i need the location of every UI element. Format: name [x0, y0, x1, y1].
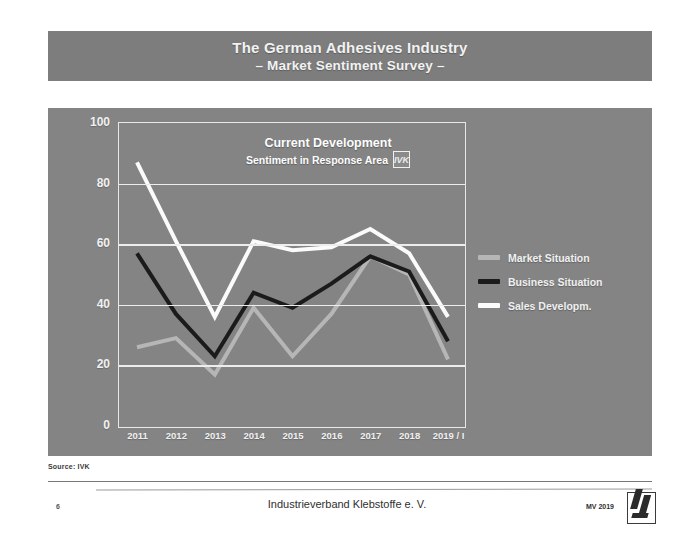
legend-swatch-icon: [478, 303, 500, 308]
gridline: [119, 244, 465, 246]
series-line: [137, 256, 448, 374]
y-tick-label: 40: [76, 297, 110, 311]
x-tick-label: 2012: [166, 430, 187, 441]
legend-label: Business Situation: [508, 276, 603, 288]
gridline: [119, 184, 465, 186]
legend-item: Market Situation: [478, 248, 643, 267]
x-tick-label: 2014: [244, 430, 265, 441]
legend-swatch-icon: [478, 255, 500, 260]
legend-item: Business Situation: [478, 272, 643, 291]
chart-legend: Market SituationBusiness SituationSales …: [478, 248, 643, 320]
legend-label: Market Situation: [508, 252, 590, 264]
legend-label: Sales Developm.: [508, 300, 591, 312]
footer-rule-top: [48, 481, 652, 482]
y-axis-labels: 020406080100: [62, 122, 110, 428]
y-tick-label: 20: [76, 357, 110, 371]
x-axis-labels: 201120122013201420152016201720182019 / I: [118, 430, 466, 450]
slide-title-secondary: – Market Sentiment Survey –: [255, 57, 444, 74]
x-tick-label: 2019 / I: [433, 430, 465, 441]
gridline: [119, 365, 465, 367]
footer-rule-bottom: [96, 488, 652, 490]
slide-title-primary: The German Adhesives Industry: [232, 39, 467, 57]
x-tick-label: 2016: [321, 430, 342, 441]
y-tick-label: 80: [76, 176, 110, 190]
series-line: [137, 162, 448, 317]
x-tick-label: 2018: [399, 430, 420, 441]
x-tick-label: 2011: [127, 430, 148, 441]
x-tick-label: 2013: [205, 430, 226, 441]
chart-panel: 020406080100 201120122013201420152016201…: [48, 108, 652, 456]
x-tick-label: 2017: [360, 430, 381, 441]
series-lines: [119, 123, 464, 426]
y-tick-label: 0: [76, 418, 110, 432]
ivk-brand-logo-icon: [627, 492, 656, 524]
legend-swatch-icon: [478, 279, 500, 284]
legend-item: Sales Developm.: [478, 296, 643, 315]
footer-event-label: MV 2019: [586, 503, 614, 510]
y-tick-label: 100: [76, 115, 110, 129]
plot-area: [118, 122, 466, 428]
slide-title-banner: The German Adhesives Industry – Market S…: [48, 31, 652, 81]
y-tick-label: 60: [76, 236, 110, 250]
gridline: [119, 305, 465, 307]
source-note: Source: IVK: [48, 463, 90, 470]
x-tick-label: 2015: [282, 430, 303, 441]
